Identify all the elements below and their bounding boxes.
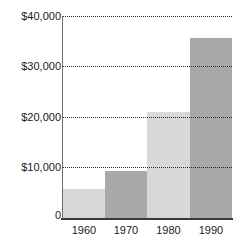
x-tick-text: 1980 xyxy=(156,224,180,236)
gridline-40000 xyxy=(63,16,232,17)
y-axis-tick-label-30000: $30,000 xyxy=(3,61,61,72)
y-axis-tick-label-20000: $20,000 xyxy=(3,112,61,123)
x-tick-text: 1960 xyxy=(72,224,96,236)
y-tick-text: $10,000 xyxy=(21,161,61,173)
x-tick-text: 1990 xyxy=(199,224,223,236)
gridline-10000 xyxy=(63,167,232,168)
y-tick-text: $40,000 xyxy=(21,10,61,22)
x-axis-tick-label-1980: 1980 xyxy=(147,224,190,236)
bar-1960 xyxy=(63,189,105,218)
y-tick-text: $30,000 xyxy=(21,60,61,72)
x-axis-tick-label-1990: 1990 xyxy=(190,224,232,236)
x-tick-text: 1970 xyxy=(114,224,138,236)
y-axis-tick-label-10000: $10,000 xyxy=(3,162,61,173)
x-axis-tick-label-1960: 1960 xyxy=(63,224,105,236)
y-tick-text: $20,000 xyxy=(21,111,61,123)
x-axis-tick-label-1970: 1970 xyxy=(105,224,147,236)
bar-chart: $40,000 $30,000 $20,000 $10,000 0 1960 1… xyxy=(0,0,240,244)
gridline-30000 xyxy=(63,66,232,67)
gridline-20000 xyxy=(63,117,232,118)
y-axis-tick-label-40000: $40,000 xyxy=(3,11,61,22)
bar-1980 xyxy=(147,112,190,218)
x-axis-line xyxy=(61,218,233,220)
plot-area xyxy=(63,16,232,218)
y-axis-tick-label-0: 0 xyxy=(3,210,61,221)
bar-1970 xyxy=(105,171,147,218)
